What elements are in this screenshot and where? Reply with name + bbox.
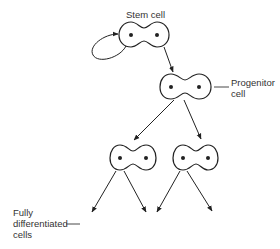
- stem-to-progenitor-arrow: [164, 47, 173, 72]
- nucleus-icon: [118, 156, 122, 160]
- progenitor-cell: [160, 74, 211, 99]
- nucleus-icon: [206, 156, 210, 160]
- nucleus-icon: [144, 156, 148, 160]
- progenitor-label-line2: cell: [231, 88, 245, 99]
- left-daughter-cell: [110, 145, 156, 170]
- nucleus-icon: [181, 156, 185, 160]
- differentiation-arrow-3: [157, 171, 180, 212]
- stem-cell-label: Stem cell: [126, 9, 165, 20]
- stem-cell: [119, 22, 169, 47]
- self-renewal-arrow: [92, 34, 126, 59]
- differentiated-label-line1: Fully: [13, 207, 33, 218]
- differentiation-arrow-1: [92, 171, 116, 212]
- cell-lineage-diagram: [0, 0, 280, 249]
- nucleus-icon: [155, 33, 159, 37]
- nucleus-icon: [197, 85, 201, 89]
- differentiation-arrow-4: [187, 171, 212, 211]
- differentiated-label-line2: differentiated: [13, 218, 68, 229]
- progenitor-to-right-arrow: [184, 100, 201, 139]
- nucleus-icon: [129, 33, 133, 37]
- right-daughter-cell: [173, 145, 218, 170]
- nucleus-icon: [169, 85, 173, 89]
- progenitor-to-left-arrow: [134, 100, 174, 140]
- differentiation-arrow-2: [124, 171, 146, 212]
- differentiated-label-line3: cells: [13, 229, 32, 240]
- progenitor-label-line1: Progenitor: [231, 77, 275, 88]
